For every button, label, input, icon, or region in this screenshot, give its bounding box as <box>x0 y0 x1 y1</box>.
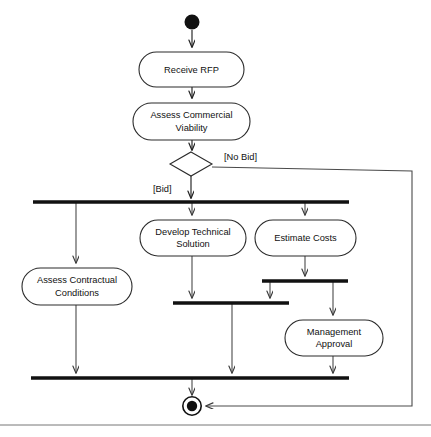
activity-diagram-canvas: Receive RFP Assess Commercial Viability … <box>0 0 431 437</box>
activity-develop-technical-solution-shape[interactable] <box>140 220 246 256</box>
activity-develop-technical-solution-label-line1: Develop Technical <box>155 227 230 237</box>
activity-assess-contractual-conditions-label-line1: Assess Contractual <box>37 275 117 285</box>
activity-assess-commercial-viability[interactable]: Assess Commercial Viability <box>133 103 250 140</box>
activity-management-approval-label-line1: Management <box>307 327 362 337</box>
activity-management-approval[interactable]: Management Approval <box>285 320 383 356</box>
final-node <box>183 397 201 415</box>
activity-management-approval-label-line2: Approval <box>316 339 353 349</box>
activity-estimate-costs-label: Estimate Costs <box>274 233 337 243</box>
activity-assess-commercial-viability-label-line2: Viability <box>176 123 208 133</box>
initial-node-icon <box>185 15 200 30</box>
final-node-inner-dot <box>187 401 197 411</box>
activity-assess-commercial-viability-shape[interactable] <box>133 103 250 140</box>
activity-assess-contractual-conditions-label-line2: Conditions <box>55 288 99 298</box>
activity-assess-commercial-viability-label-line1: Assess Commercial <box>150 110 232 120</box>
activity-management-approval-shape[interactable] <box>285 320 383 356</box>
activity-receive-rfp[interactable]: Receive RFP <box>139 52 244 87</box>
activity-assess-contractual-conditions[interactable]: Assess Contractual Conditions <box>22 268 132 305</box>
uml-activity-diagram: Receive RFP Assess Commercial Viability … <box>0 0 431 437</box>
decision-diamond[interactable] <box>170 152 212 176</box>
activity-estimate-costs[interactable]: Estimate Costs <box>255 220 356 256</box>
guard-label-no-bid: [No Bid] <box>224 152 257 162</box>
activity-assess-contractual-conditions-shape[interactable] <box>22 268 132 305</box>
activity-develop-technical-solution[interactable]: Develop Technical Solution <box>140 220 246 256</box>
guard-label-bid: [Bid] <box>153 184 172 194</box>
activity-develop-technical-solution-label-line2: Solution <box>176 239 210 249</box>
activity-receive-rfp-label: Receive RFP <box>164 65 219 75</box>
